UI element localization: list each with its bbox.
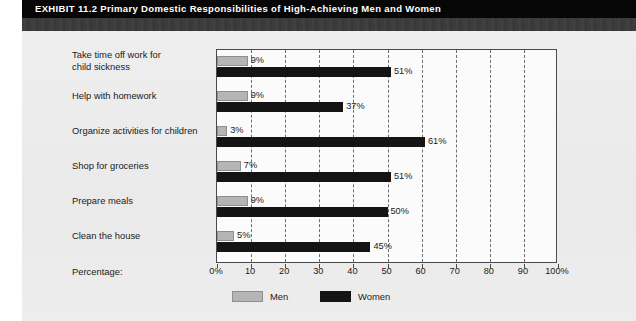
x-axis-tick-label: 0% [209,266,222,276]
gridline [285,50,286,262]
category-label: Prepare meals [72,195,217,207]
bar-value-women: 61% [428,136,446,146]
category-label-line: Help with homework [72,90,217,102]
bar-men [217,126,227,136]
bar-women [217,102,343,112]
category-label-line: Clean the house [72,230,217,242]
bar-value-women: 50% [391,206,409,216]
category-label-line: Take time off work for [72,49,217,61]
category-label: Shop for groceries [72,160,217,172]
category-label-line: Shop for groceries [72,160,217,172]
legend-label-men: Men [270,291,288,302]
gridline [353,50,354,262]
bar-men [217,231,234,241]
legend-item-men: Men [232,290,288,302]
category-label-line: child sickness [72,61,217,73]
x-axis-tick-label: 100% [545,266,569,276]
percentage-caption: Percentage: [72,266,123,277]
gridline [388,50,389,262]
x-axis-tick-label: 80 [484,266,494,276]
category-label-line: Prepare meals [72,195,217,207]
category-label: Organize activities for children [72,125,217,137]
bar-men [217,91,248,101]
bar-men [217,196,248,206]
gridline [251,50,252,262]
bar-women [217,207,388,217]
gridline [319,50,320,262]
bar-women [217,242,370,252]
bar-value-men: 9% [251,195,264,205]
x-axis-tick-label: 70 [450,266,460,276]
bar-men [217,56,248,66]
x-axis-tick-label: 90 [518,266,528,276]
bar-value-women: 45% [373,241,391,251]
x-axis-tick-label: 30 [313,266,323,276]
plot-area [216,49,557,263]
bar-value-men: 5% [237,230,250,240]
x-axis-tick-label: 60 [415,266,425,276]
bar-value-women: 37% [346,101,364,111]
bar-value-men: 7% [244,160,257,170]
category-label: Clean the house [72,230,217,242]
gridline [490,50,491,262]
bar-women [217,67,391,77]
x-axis-tick-label: 40 [347,266,357,276]
legend-swatch-men [232,291,263,302]
legend-item-women: Women [320,290,390,302]
x-axis-tick-label: 50 [381,266,391,276]
x-axis-tick-label: 20 [279,266,289,276]
bar-men [217,161,241,171]
category-label: Take time off work forchild sickness [72,49,217,72]
bar-value-men: 9% [251,55,264,65]
category-label-line: Organize activities for children [72,125,217,137]
exhibit-page: EXHIBIT 11.2 Primary Domestic Responsibi… [0,0,636,321]
bar-women [217,137,425,147]
x-axis-tick-label: 10 [245,266,255,276]
category-label: Help with homework [72,90,217,102]
bar-value-men: 3% [230,125,243,135]
gridline [456,50,457,262]
gridline [524,50,525,262]
gridline [422,50,423,262]
bar-women [217,172,391,182]
bar-value-women: 51% [394,171,412,181]
legend-swatch-women [320,291,351,302]
bar-value-men: 9% [251,90,264,100]
bar-value-women: 51% [394,66,412,76]
legend-label-women: Women [358,291,390,302]
